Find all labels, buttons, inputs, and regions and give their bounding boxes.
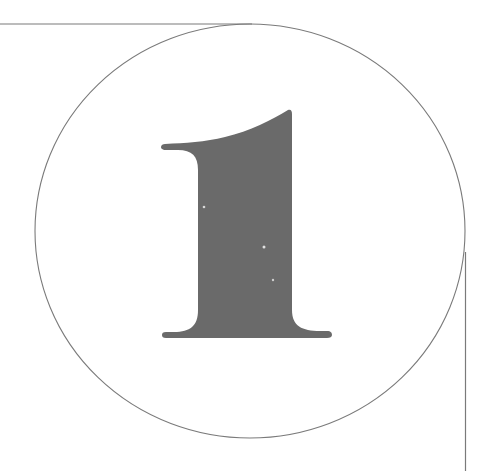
- numeral-one-glyph: [161, 110, 332, 338]
- speckle: [263, 246, 266, 249]
- speckle: [272, 279, 274, 281]
- chapter-number-ornament: 1: [0, 0, 495, 471]
- speckle: [203, 206, 206, 209]
